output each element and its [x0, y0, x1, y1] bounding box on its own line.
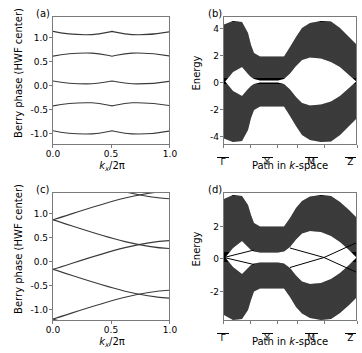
- panel-d-ytick-2: 0: [205, 255, 219, 264]
- panel-c: (c) Berry phase (HWF center) 1.0 0.5 0.0…: [0, 176, 181, 353]
- panel-d-axes: [223, 192, 357, 321]
- panel-a-label: (a): [36, 9, 50, 19]
- panel-c-xtick-3: 1.0: [157, 326, 183, 335]
- surface-state-bands: [224, 242, 357, 273]
- panel-c-ytick-2: 0.5: [22, 234, 48, 243]
- panel-c-xlabel-suffix: /2π: [109, 336, 125, 347]
- panel-a-xtick-mark: [169, 145, 170, 148]
- panel-c-xtick-2: 0.5: [98, 326, 124, 335]
- panel-b-xtick-1: Γ: [217, 158, 229, 167]
- panel-c-plot: [53, 193, 170, 321]
- panel-d-plot: [224, 193, 357, 321]
- panel-b-xtick-mark: [277, 145, 278, 148]
- panel-b-ytick-1: 4: [205, 25, 219, 34]
- panel-d-xlabel-suffix: -space: [295, 336, 328, 347]
- panel-d-xtick-mark: [324, 321, 325, 324]
- panel-a-ytick-2: 0.5: [22, 58, 48, 67]
- panel-d-xtick-mark: [223, 321, 224, 324]
- panel-c-label: (c): [36, 185, 49, 195]
- panel-d-xlabel: Path in k-space: [230, 337, 350, 347]
- panel-a-xtick-mark: [52, 145, 53, 148]
- panel-a: (a) Berry phase (HWF center) 1.0 0.5 0.0…: [0, 0, 181, 176]
- panel-d-xtick-mark: [297, 321, 298, 324]
- panel-b-xlabel-suffix: -space: [295, 160, 328, 171]
- panel-d-xtick-mark: [250, 321, 251, 324]
- panel-a-xlabel: kx/2π: [61, 161, 163, 171]
- panel-b-ytick-3: 0: [205, 79, 219, 88]
- panel-b-xtick-mark: [250, 145, 251, 148]
- panel-a-xtick-3: 1.0: [157, 150, 183, 159]
- panel-a-xtick-2: 0.5: [98, 150, 124, 159]
- panel-d-xlabel-prefix: Path in: [252, 336, 289, 347]
- panel-a-ytick-5: -1.0: [19, 130, 48, 139]
- panel-c-ylabel: Berry phase (HWF center): [14, 184, 24, 314]
- panel-a-ylabel: Berry phase (HWF center): [14, 8, 24, 138]
- panel-b-xtick-mark: [324, 145, 325, 148]
- panel-d-xtick-mark: [357, 321, 358, 324]
- panel-b-xlabel: Path in k-space: [230, 161, 350, 171]
- panel-b-ylabel: Energy: [192, 38, 202, 108]
- panel-c-xlabel-sub: x: [105, 341, 109, 349]
- panel-b-ytick-5: -4: [201, 133, 219, 142]
- panel-b-xlabel-prefix: Path in: [252, 160, 289, 171]
- panel-a-xtick-1: 0.0: [40, 150, 66, 159]
- panel-a-axes: [52, 16, 170, 145]
- panel-d-xtick-1: Γ: [217, 334, 229, 343]
- panel-a-ytick-1: 1.0: [22, 34, 48, 43]
- panel-c-axes: [52, 192, 170, 321]
- panel-c-ytick-3: 0.0: [22, 258, 48, 267]
- panel-b-label: (b): [208, 9, 222, 19]
- panel-c-ytick-1: 1.0: [22, 210, 48, 219]
- panel-b-plot: [224, 17, 357, 145]
- panel-a-xlabel-suffix: /2π: [109, 160, 125, 171]
- panel-a-xtick-mark: [111, 145, 112, 148]
- panel-b-ytick-2: 2: [205, 52, 219, 61]
- panel-a-ytick-4: -0.5: [19, 106, 48, 115]
- panel-d-ylabel: Energy: [192, 214, 202, 284]
- panel-c-xtick-mark: [52, 321, 53, 324]
- panel-b-xtick-mark: [297, 145, 298, 148]
- figure-panel-grid: (a) Berry phase (HWF center) 1.0 0.5 0.0…: [0, 0, 362, 353]
- panel-b-xtick-mark: [357, 145, 358, 148]
- panel-d-xtick-mark: [277, 321, 278, 324]
- panel-d-ytick-1: 2: [205, 223, 219, 232]
- panel-c-xtick-mark: [111, 321, 112, 324]
- panel-c-xlabel: kx/2π: [61, 337, 163, 347]
- panel-a-xlabel-sub: x: [105, 165, 109, 173]
- panel-c-ytick-4: -0.5: [19, 282, 48, 291]
- panel-d-label: (d): [208, 185, 222, 195]
- panel-b-xtick-mark: [223, 145, 224, 148]
- panel-c-xtick-1: 0.0: [40, 326, 66, 335]
- panel-b: (b) Energy 4 2 0 -2 -4: [181, 0, 362, 176]
- panel-a-ytick-3: 0.0: [22, 82, 48, 91]
- panel-b-axes: [223, 16, 357, 145]
- panel-c-ytick-5: -1.0: [19, 306, 48, 315]
- panel-d-ytick-3: -2: [201, 288, 219, 297]
- panel-a-plot: [53, 17, 170, 145]
- panel-c-xtick-mark: [169, 321, 170, 324]
- panel-b-ytick-4: -2: [201, 106, 219, 115]
- panel-d: (d) Energy 2 0 -2: [181, 176, 362, 353]
